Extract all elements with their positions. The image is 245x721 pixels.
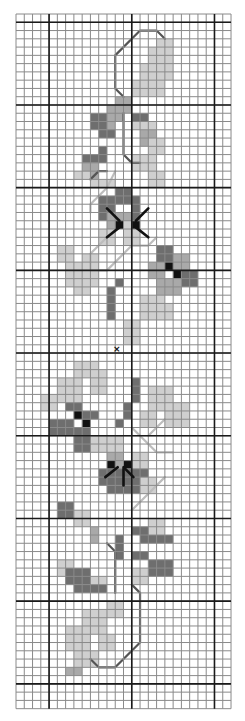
stitch-cell: [107, 461, 115, 469]
stitch-cells: [41, 39, 198, 676]
pattern-grid: ×: [0, 0, 245, 721]
center-mark-icon: ×: [113, 344, 121, 354]
stitch-cell: [82, 419, 90, 427]
stitch-cell: [124, 221, 132, 229]
stitch-cell: [74, 411, 82, 419]
stitch-cell: [132, 378, 140, 403]
minor-grid-lines: [16, 14, 231, 709]
stitch-cell: [57, 378, 82, 403]
stitch-cell: [132, 122, 157, 130]
stitch-cell: [165, 403, 190, 428]
svg-text:×: ×: [113, 344, 121, 354]
stitch-cell: [66, 626, 91, 651]
stitch-cell: [173, 270, 181, 278]
cross-stitch-chart: Cross-stitch floral vine border pattern …: [0, 0, 245, 721]
stitch-cell: [165, 262, 173, 270]
stitch-cell: [115, 419, 123, 427]
stitch-cell: [115, 279, 123, 287]
stitch-cell: [115, 535, 123, 543]
